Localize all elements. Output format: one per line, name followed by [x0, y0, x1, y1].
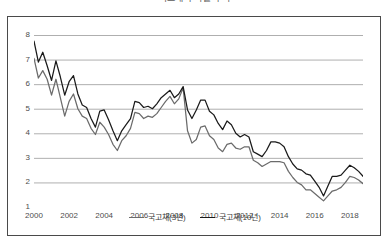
- chart-legend: 국고채(3년) 국고채(10년): [8, 213, 382, 222]
- chart-screenshot: 국고채 수익률 추이 12345678 20002002200420062008…: [0, 0, 389, 244]
- legend-item-10yr[interactable]: 국고채(10년): [200, 213, 261, 222]
- y-tick-label: 6: [26, 80, 30, 88]
- chart-frame: 12345678 2000200220042006200820102012201…: [7, 16, 381, 236]
- y-tick-label: 3: [26, 154, 30, 162]
- y-tick-label: 1: [26, 203, 30, 211]
- plot-area: 12345678 2000200220042006200820102012201…: [34, 35, 363, 207]
- legend-label-3yr: 국고채(3년): [148, 213, 186, 222]
- y-tick-label: 2: [26, 178, 30, 186]
- y-tick-label: 4: [26, 129, 30, 137]
- chart-title: 국고채 수익률 추이: [0, 0, 389, 3]
- y-tick-label: 8: [26, 31, 30, 39]
- series-line-10yr: [34, 41, 363, 196]
- y-tick-label: 7: [26, 56, 30, 64]
- legend-swatch-10yr: [200, 217, 215, 218]
- legend-label-10yr: 국고채(10년): [219, 213, 261, 222]
- line-chart-svg: [34, 35, 363, 207]
- legend-swatch-3yr: [129, 217, 144, 218]
- y-tick-label: 5: [26, 105, 30, 113]
- legend-item-3yr[interactable]: 국고채(3년): [129, 213, 186, 222]
